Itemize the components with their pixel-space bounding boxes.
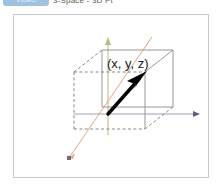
- y-axis-vertical: [105, 37, 111, 135]
- header-strip: VIDEO 3-Space - 3D Pt: [0, 0, 216, 9]
- figure-panel: (x, y, z): [13, 14, 209, 178]
- video-badge[interactable]: VIDEO: [3, 0, 49, 6]
- screenshot-root: VIDEO 3-Space - 3D Pt: [0, 0, 216, 186]
- coordinate-diagram: (x, y, z): [14, 15, 210, 179]
- x-axis-horizontal: [74, 111, 200, 117]
- header-title-fragment: 3-Space - 3D Pt: [53, 0, 113, 6]
- point-label: (x, y, z): [107, 56, 149, 71]
